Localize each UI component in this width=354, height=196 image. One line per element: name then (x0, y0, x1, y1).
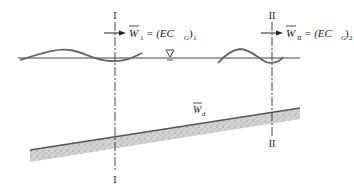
svg-text:2: 2 (349, 34, 353, 42)
svg-text:II: II (297, 34, 302, 42)
svg-text:1: 1 (140, 34, 144, 42)
flux-label-section-2: W II = (EC G ) 2 (286, 26, 353, 42)
flux-label-section-1: W 1 = (EC G ) 1 (129, 26, 197, 42)
section-1-bottom-label: I (113, 174, 116, 185)
section-2-bottom-label: II (269, 138, 276, 149)
svg-text:1: 1 (193, 34, 197, 42)
svg-text:W: W (129, 27, 139, 39)
svg-text:d: d (202, 110, 206, 117)
bed-band (30, 108, 300, 162)
groundwater-flux-diagram: I I II II W 1 = (EC G ) 1 W II = (EC G )… (0, 0, 354, 196)
bed-flux-label: W d (193, 103, 206, 117)
section-1-top-label: I (113, 10, 116, 21)
svg-text:W: W (286, 27, 296, 39)
section-2-top-label: II (269, 10, 276, 21)
wave-section-1 (20, 50, 142, 62)
svg-text:= (EC: = (EC (146, 27, 175, 40)
wave-section-2 (218, 49, 283, 63)
svg-text:= (EC: = (EC (304, 27, 333, 40)
